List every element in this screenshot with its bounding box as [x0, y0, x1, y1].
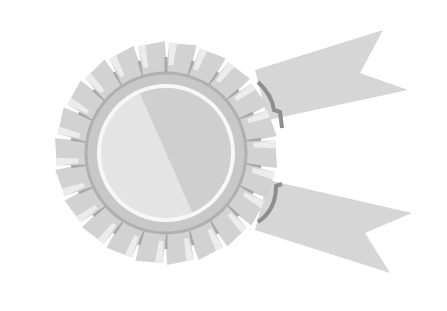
ribbon-tails	[255, 30, 412, 273]
ribbon-tail-top	[255, 30, 408, 120]
ribbon-tail-bottom	[255, 180, 412, 273]
award-ribbon-illustration	[0, 0, 447, 311]
